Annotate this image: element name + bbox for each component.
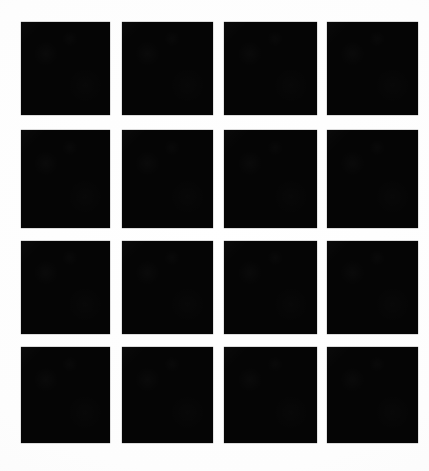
grid-patch — [327, 241, 418, 334]
grid-patch — [122, 22, 213, 115]
grid-pattern-canvas — [0, 0, 429, 471]
grid-patch — [327, 22, 418, 115]
grid-patch — [122, 130, 213, 228]
grid-patch — [327, 347, 418, 443]
grid-patch — [224, 130, 317, 228]
grid-patch — [224, 347, 317, 443]
grid-patch — [21, 241, 110, 334]
grid-patch — [21, 347, 110, 443]
grid-patch — [122, 241, 213, 334]
grid-patch — [21, 22, 110, 115]
grid-patch — [224, 241, 317, 334]
grid-patch — [122, 347, 213, 443]
grid-patch — [327, 130, 418, 228]
grid-patch — [224, 22, 317, 115]
grid-patch — [21, 130, 110, 228]
